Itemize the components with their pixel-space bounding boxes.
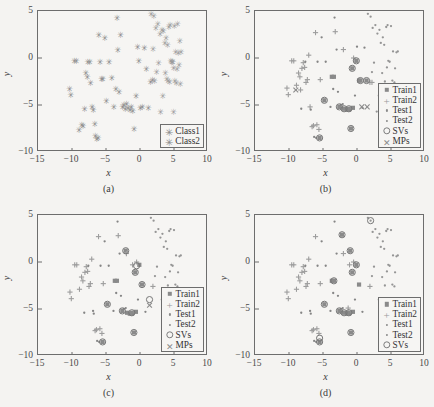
series-Test2 <box>367 217 399 301</box>
y-axis-tick-label: 5 <box>4 5 33 15</box>
plot-area: Train1+Train2Test1Test2SVs✕MPs <box>254 10 424 151</box>
series-Class2: ✳✳✳✳✳✳✳✳✳✳✳✳✳✳✳✳✳✳✳✳✳✳✳✳✳✳✳✳✳✳✳✳✳✳✳✳✳✳✳ <box>147 11 184 117</box>
figure-container: ✳✳✳✳✳✳✳✳✳✳✳✳✳✳✳✳✳✳✳✳✳✳✳✳✳✳✳✳✳✳✳✳✳✳✳✳✳✳✳✳… <box>0 0 434 407</box>
legend-item: SVs <box>164 330 200 340</box>
x-axis-label: x <box>0 167 217 178</box>
panel-caption: (c) <box>0 387 217 398</box>
svg-text:✳: ✳ <box>159 91 166 101</box>
svg-text:✳: ✳ <box>67 90 74 100</box>
chart-legend: ✳Class1✳Class2 <box>160 124 204 148</box>
x-axis-tick-label: 5 <box>388 154 393 164</box>
chart-panel-a: ✳✳✳✳✳✳✳✳✳✳✳✳✳✳✳✳✳✳✳✳✳✳✳✳✳✳✳✳✳✳✳✳✳✳✳✳✳✳✳✳… <box>0 0 217 203</box>
series-SVs <box>317 218 374 345</box>
y-axis-label: y <box>1 276 12 280</box>
y-axis-label: y <box>218 72 229 76</box>
svg-text:✳: ✳ <box>174 19 181 29</box>
svg-text:✳: ✳ <box>105 57 112 67</box>
legend-marker-circle-icon <box>164 330 176 340</box>
legend-item-label: Test2 <box>176 319 196 329</box>
chart-legend: Train1+Train2Test1Test2SVs <box>378 297 421 352</box>
legend-item-label: MPs <box>176 340 193 350</box>
x-axis-tick-label: 0 <box>354 154 359 164</box>
svg-text:✳: ✳ <box>177 79 184 89</box>
x-axis-tick-label: 0 <box>137 358 142 368</box>
legend-item-label: Test2 <box>393 330 413 340</box>
x-axis-label: x <box>217 167 434 178</box>
legend-item: ✳Class1 <box>163 126 200 136</box>
svg-text:✳: ✳ <box>96 57 103 67</box>
series-Train1 <box>318 59 369 140</box>
y-axis-tick-label: 0 <box>4 52 33 62</box>
legend-marker-square-icon <box>381 85 393 95</box>
legend-marker-dot-icon <box>381 330 393 340</box>
x-axis-tick-label: −5 <box>100 154 110 164</box>
legend-item-label: Class1 <box>175 126 200 136</box>
panel-caption: (d) <box>217 387 434 398</box>
svg-text:✳: ✳ <box>90 105 97 115</box>
x-axis-tick-label: −10 <box>64 358 79 368</box>
svg-text:✳: ✳ <box>81 104 88 114</box>
legend-item-label: Train1 <box>393 299 417 309</box>
legend-marker-plus-icon: + <box>381 95 393 105</box>
svg-text:✳: ✳ <box>101 33 108 43</box>
y-axis-tick-label: −10 <box>4 350 33 360</box>
plot-area: ✳✳✳✳✳✳✳✳✳✳✳✳✳✳✳✳✳✳✳✳✳✳✳✳✳✳✳✳✳✳✳✳✳✳✳✳✳✳✳✳… <box>37 10 207 151</box>
series-MPs <box>147 303 152 308</box>
legend-item: ✕MPs <box>164 340 200 350</box>
legend-item-label: Train2 <box>393 309 417 319</box>
x-axis-tick-label: 10 <box>202 358 212 368</box>
panel-caption: (a) <box>0 183 217 194</box>
y-axis-tick-label: −10 <box>4 146 33 156</box>
chart-legend: Train1+Train2Test1Test2SVs✕MPs <box>161 287 204 352</box>
legend-item-label: Train2 <box>393 95 417 105</box>
legend-item-label: MPs <box>393 136 410 146</box>
legend-item: Test2 <box>381 115 417 125</box>
svg-text:✳: ✳ <box>143 64 150 74</box>
legend-item-label: Train1 <box>176 289 200 299</box>
svg-text:✳: ✳ <box>87 78 94 88</box>
legend-marker-dot-icon <box>164 309 176 319</box>
y-axis-tick-label: 5 <box>221 5 250 15</box>
x-axis-label: x <box>0 371 217 382</box>
legend-item: Test1 <box>164 309 200 319</box>
y-axis-tick-label: −5 <box>4 99 33 109</box>
plot-area: Train1+Train2Test1Test2SVs <box>254 214 424 355</box>
x-axis-tick-label: 10 <box>202 154 212 164</box>
svg-text:✳: ✳ <box>177 47 184 57</box>
svg-text:✳: ✳ <box>115 87 122 97</box>
y-axis-tick-label: 0 <box>221 52 250 62</box>
y-axis-tick-label: −5 <box>221 303 250 313</box>
y-axis-label: y <box>1 72 12 76</box>
legend-marker-plus-icon: + <box>381 309 393 319</box>
svg-text:✳: ✳ <box>129 106 136 116</box>
legend-item-label: Test2 <box>393 115 413 125</box>
svg-text:✳: ✳ <box>113 13 120 23</box>
svg-text:✳: ✳ <box>130 124 137 134</box>
legend-item: Test2 <box>164 319 200 329</box>
y-axis-tick-label: −5 <box>4 303 33 313</box>
legend-item: Test2 <box>381 330 417 340</box>
svg-text:✳: ✳ <box>157 107 164 117</box>
svg-text:✳: ✳ <box>73 56 80 66</box>
x-axis-tick-label: −10 <box>281 154 296 164</box>
x-axis-tick-label: 0 <box>354 358 359 368</box>
y-axis-label: y <box>218 276 229 280</box>
x-axis-tick-label: 10 <box>419 358 429 368</box>
x-axis-tick-label: −10 <box>64 154 79 164</box>
legend-item-label: Test1 <box>176 309 196 319</box>
svg-text:✳: ✳ <box>175 60 182 70</box>
x-axis-tick-label: −5 <box>317 154 327 164</box>
x-axis-tick-label: −5 <box>100 358 110 368</box>
chart-legend: Train1+Train2Test1Test2SVs✕MPs <box>378 83 421 148</box>
legend-item: Test1 <box>381 319 417 329</box>
legend-item: ✕MPs <box>381 136 417 146</box>
legend-item: Test1 <box>381 105 417 115</box>
x-axis-tick-label: 0 <box>137 154 142 164</box>
y-axis-tick-label: 5 <box>221 209 250 219</box>
svg-text:✳: ✳ <box>176 36 183 46</box>
series-Train1 <box>318 233 362 344</box>
legend-marker-square-icon <box>381 299 393 309</box>
y-axis-tick-label: −5 <box>221 99 250 109</box>
legend-item: SVs <box>381 340 417 350</box>
legend-marker-plus-icon: + <box>164 299 176 309</box>
